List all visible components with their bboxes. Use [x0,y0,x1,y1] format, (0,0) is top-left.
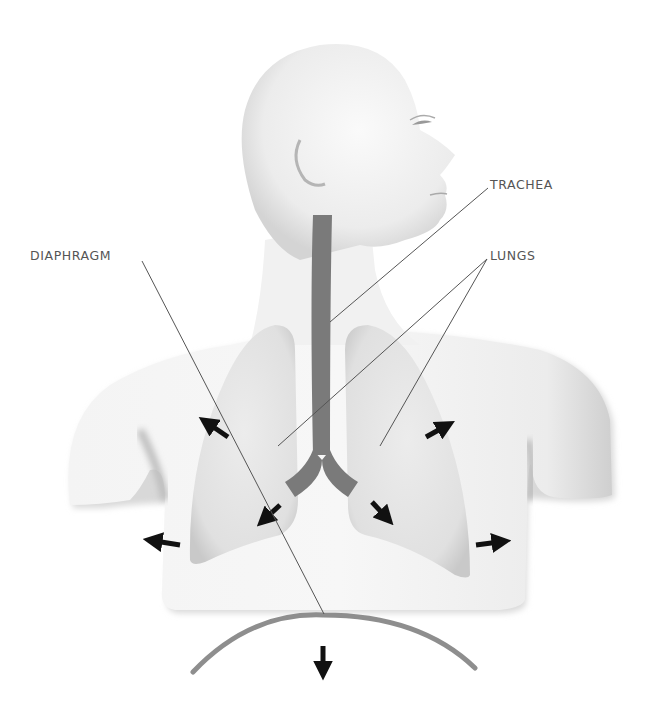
lungs-label: LUNGS [490,248,535,263]
body-silhouette [68,44,615,613]
diaphragm-label: DIAPHRAGM [30,248,111,263]
arrow-right-side-icon [476,542,499,545]
respiratory-diagram [0,0,647,723]
head [242,44,455,260]
diaphragm [193,615,475,672]
trachea [312,215,333,455]
trachea-label: TRACHEA [490,177,553,192]
